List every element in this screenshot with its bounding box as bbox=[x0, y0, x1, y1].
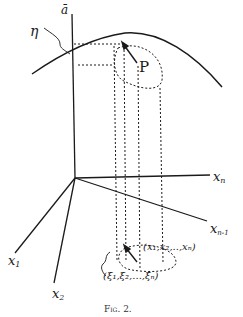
a-bar-label: ā bbox=[61, 3, 68, 17]
x1-axis bbox=[15, 178, 75, 253]
x2-axis bbox=[54, 178, 75, 283]
figure-diagram: ā η P xn xn-1 x1 x2 (x₁,x₂,..,xₙ) (ξ₁,ξ₂… bbox=[0, 0, 243, 317]
eta-pointer bbox=[44, 28, 70, 54]
point-x-label: (x₁,x₂,..,xₙ) bbox=[143, 241, 196, 252]
xn-axis bbox=[75, 175, 210, 178]
figure-caption: Fig. 2. bbox=[104, 304, 132, 314]
surface-curve bbox=[32, 33, 222, 87]
eta-label: η bbox=[30, 23, 39, 39]
xn1-axis bbox=[75, 178, 207, 221]
p-label: P bbox=[139, 58, 149, 76]
xn1-label: xn-1 bbox=[210, 221, 229, 237]
x2-label: x2 bbox=[52, 286, 64, 302]
x1-label: x1 bbox=[8, 253, 20, 269]
a-axis bbox=[72, 14, 75, 178]
point-xi-label: (ξ₁,ξ₂,...,ξₙ) bbox=[103, 270, 159, 281]
xn-label: xn bbox=[213, 169, 226, 185]
